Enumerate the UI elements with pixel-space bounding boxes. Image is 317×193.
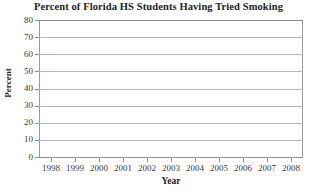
chart-title: Percent of Florida HS Students Having Tr… — [0, 1, 317, 12]
y-axis-tick — [35, 157, 39, 158]
y-axis-label-text: 80 — [12, 16, 33, 25]
y-axis-label-text: 20 — [12, 118, 33, 127]
y-axis-tick — [35, 123, 39, 124]
x-axis-tick — [243, 158, 244, 162]
y-axis-label: 40 — [12, 84, 33, 93]
x-axis-tick — [75, 158, 76, 162]
y-axis-label: 20 — [12, 118, 33, 127]
x-axis-tick — [291, 158, 292, 162]
y-axis-tick — [35, 20, 39, 21]
x-axis-tick — [123, 158, 124, 162]
x-axis-tick — [195, 158, 196, 162]
x-axis-title: Year — [39, 176, 303, 186]
plot-area — [39, 20, 303, 157]
y-axis-label: 70 — [12, 33, 33, 42]
x-axis-tick — [99, 158, 100, 162]
series-layer — [39, 20, 303, 157]
y-axis-tick — [35, 54, 39, 55]
y-axis-label-text: 30 — [12, 101, 33, 110]
x-axis-tick — [171, 158, 172, 162]
y-axis-label: 0 — [12, 153, 33, 162]
y-axis-label-text: 70 — [12, 33, 33, 42]
y-axis-tick — [35, 106, 39, 107]
y-axis-label: 60 — [12, 50, 33, 59]
x-axis-tick — [147, 158, 148, 162]
y-axis-label-text: 40 — [12, 84, 33, 93]
y-axis-label: 10 — [12, 135, 33, 144]
y-axis-label-text: 0 — [12, 153, 33, 162]
x-axis-tick — [267, 158, 268, 162]
y-axis-label-text: 10 — [12, 135, 33, 144]
x-axis-label: 2008 — [271, 163, 311, 173]
x-axis-tick — [51, 158, 52, 162]
y-axis-tick — [35, 89, 39, 90]
y-axis-tick — [35, 71, 39, 72]
y-axis-label-text: 50 — [12, 67, 33, 76]
y-axis-tick — [35, 37, 39, 38]
y-axis-label: 80 — [12, 16, 33, 25]
y-axis-tick — [35, 140, 39, 141]
y-axis-label-text: 60 — [12, 50, 33, 59]
chart-container: Percent of Florida HS Students Having Tr… — [0, 0, 317, 193]
y-axis-label: 30 — [12, 101, 33, 110]
x-axis-tick — [219, 158, 220, 162]
y-axis-label: 50 — [12, 67, 33, 76]
